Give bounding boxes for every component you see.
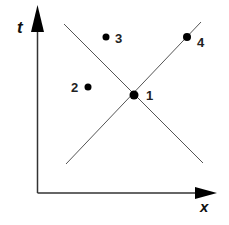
t-axis-label: t [17,18,24,37]
spacetime-diagram: t x 1 2 3 4 [0,0,229,225]
event-label-3: 3 [115,31,122,46]
event-label-2: 2 [71,80,78,95]
event-point-4 [183,33,191,41]
event-label-1: 1 [146,88,153,103]
x-axis-label: x [199,198,209,215]
t-axis-arrowhead-icon [31,5,44,32]
event-point-3 [103,34,110,41]
event-point-2 [85,84,92,91]
event-label-4: 4 [197,35,205,50]
event-point-1 [130,91,139,100]
